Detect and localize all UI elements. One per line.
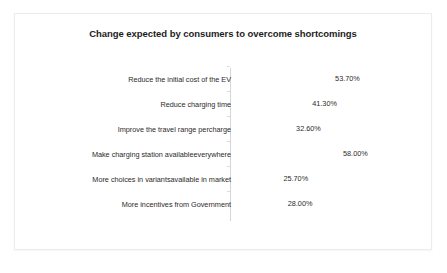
category-label: Reduce charging time (160, 99, 231, 108)
axis-tick (227, 191, 230, 192)
bar-row: Reduce the initial cost of the EV 53.70% (15, 66, 433, 91)
bar-track: 25.70% (231, 172, 278, 185)
category-label: Reduce the initial cost of the EV (128, 74, 231, 83)
bar-track: 41.30% (231, 97, 307, 110)
category-label: Improve the travel range percharge (118, 124, 231, 133)
bar-value-label: 41.30% (312, 99, 337, 108)
bar-row: More choices in variantsavailable in mar… (15, 166, 433, 191)
bar-value-label: 25.70% (283, 174, 308, 183)
bar-row: Improve the travel range percharge 32.60… (15, 116, 433, 141)
bar-row: Make charging station availableeverywher… (15, 141, 433, 166)
bar-value-label: 28.00% (288, 199, 313, 208)
axis-tick (227, 141, 230, 142)
axis-tick (227, 66, 230, 67)
bar-row: Reduce charging time 41.30% (15, 91, 433, 116)
bar-track: 32.60% (231, 122, 291, 135)
axis-tick (227, 166, 230, 167)
bar-value-label: 32.60% (296, 124, 321, 133)
category-label: Make charging station availableeverywher… (92, 149, 231, 158)
plot-area: Reduce the initial cost of the EV 53.70%… (15, 66, 433, 226)
bar-row: More incentives from Government 28.00% (15, 191, 433, 216)
category-label: More choices in variantsavailable in mar… (92, 174, 231, 183)
category-label: More incentives from Government (122, 199, 231, 208)
bar-value-label: 53.70% (335, 74, 360, 83)
axis-tick (227, 116, 230, 117)
bar-track: 58.00% (231, 147, 338, 160)
chart-frame: Change expected by consumers to overcome… (14, 13, 432, 250)
bar-track: 28.00% (231, 197, 283, 210)
axis-tick (227, 91, 230, 92)
bar-track: 53.70% (231, 72, 330, 85)
bar-value-label: 58.00% (343, 149, 368, 158)
chart-title: Change expected by consumers to overcome… (15, 28, 431, 39)
